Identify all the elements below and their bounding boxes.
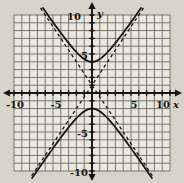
hyperbola-graph: -10-5510105-5-10yx bbox=[0, 0, 184, 183]
x-tick-label: -5 bbox=[50, 99, 61, 110]
y-tick-label: -10 bbox=[70, 167, 88, 178]
x-axis-name: x bbox=[172, 99, 180, 110]
axis-arrow bbox=[3, 89, 10, 96]
y-tick-label: 5 bbox=[81, 50, 88, 61]
axis-arrow bbox=[88, 174, 95, 181]
y-tick-label: -5 bbox=[77, 128, 88, 139]
graph-paper: -10-5510105-5-10yx bbox=[0, 0, 184, 183]
x-tick-label: -10 bbox=[6, 99, 24, 110]
x-tick-label: 5 bbox=[131, 99, 138, 110]
y-tick-label: 10 bbox=[67, 11, 81, 22]
axis-arrow bbox=[175, 89, 182, 96]
x-tick-label: 10 bbox=[156, 99, 170, 110]
axis-arrow bbox=[88, 2, 95, 9]
y-axis-name: y bbox=[96, 8, 104, 19]
